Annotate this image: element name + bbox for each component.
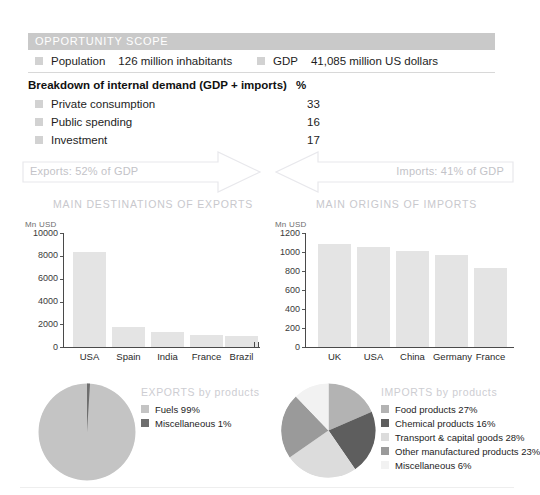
- breakdown-row-value: 16: [307, 116, 320, 128]
- y-tick-label: 400: [262, 304, 300, 314]
- y-tick-label: 8000: [18, 250, 58, 260]
- imports-pie-legend: IMPORTS by products Food products 27% Ch…: [381, 386, 540, 472]
- exports-pie-title: EXPORTS by products: [141, 386, 260, 398]
- legend-label: Miscellaneous 6%: [395, 460, 472, 471]
- legend-label: Chemical products 16%: [395, 418, 495, 429]
- x-tick-label: USA: [69, 351, 110, 362]
- breakdown-row: Private consumption 33: [28, 95, 495, 113]
- population-value: 126 million inhabitants: [118, 55, 232, 67]
- breakdown-row: Public spending 16: [28, 113, 495, 131]
- y-tickmark: [60, 256, 63, 257]
- exports-pie-legend: EXPORTS by products Fuels 99% Miscellane…: [141, 386, 260, 430]
- legend-label: Miscellaneous 1%: [155, 418, 232, 429]
- bar-uk: [318, 244, 351, 347]
- y-tick-label: 0: [262, 342, 300, 352]
- exports-section-title: MAIN DESTINATIONS OF EXPORTS: [53, 198, 253, 210]
- y-tickmark: [302, 309, 305, 310]
- legend-swatch-icon: [381, 433, 389, 441]
- legend-label: Other manufactured products 23%: [395, 446, 540, 457]
- x-tick-label: China: [392, 351, 433, 362]
- breakdown-row-value: 33: [307, 98, 320, 110]
- legend-item: Food products 27%: [381, 402, 540, 416]
- imports-share-label: Imports: 41% of GDP: [396, 165, 504, 177]
- y-tick-label: 10000: [18, 228, 58, 238]
- x-axis-line: [63, 347, 260, 348]
- imports-pie-graphic: [281, 383, 376, 478]
- legend-label: Transport & capital goods 28%: [395, 432, 525, 443]
- legend-swatch-icon: [141, 419, 149, 427]
- bullet-square-icon: [35, 118, 43, 126]
- scope-summary-row: Population 126 million inhabitants GDP 4…: [28, 50, 495, 73]
- y-tick-label: 800: [262, 266, 300, 276]
- legend-item: Transport & capital goods 28%: [381, 430, 540, 444]
- bar-spain: [112, 327, 145, 347]
- opportunity-scope-header: OPPORTUNITY SCOPE: [28, 33, 495, 50]
- bar-china: [396, 251, 429, 347]
- legend-swatch-icon: [381, 419, 389, 427]
- y-tickmark: [302, 271, 305, 272]
- gdp-group: GDP 41,085 million US dollars: [257, 55, 495, 67]
- y-tickmark: [60, 233, 63, 234]
- y-tick-label: 200: [262, 323, 300, 333]
- x-tick-label: India: [147, 351, 188, 362]
- y-tickmark: [60, 347, 63, 348]
- bar-france: [190, 335, 223, 347]
- y-tick-label: 4000: [18, 296, 58, 306]
- y-tickmark: [302, 290, 305, 291]
- breakdown-row-label: Investment: [51, 134, 107, 146]
- y-tickmark: [302, 233, 305, 234]
- legend-item: Other manufactured products 23%: [381, 444, 540, 458]
- bullet-square-icon: [35, 57, 43, 65]
- x-axis-start-cap: [254, 342, 255, 348]
- legend-label: Fuels 99%: [155, 404, 200, 415]
- y-tickmark: [302, 328, 305, 329]
- legend-item: Chemical products 16%: [381, 416, 540, 430]
- exports-pie-graphic: [38, 383, 136, 481]
- imports-pie-title: IMPORTS by products: [381, 386, 540, 398]
- x-tick-label: Brazil: [221, 351, 262, 362]
- legend-swatch-icon: [381, 447, 389, 455]
- imports-section-title: MAIN ORIGINS OF IMPORTS: [316, 198, 477, 210]
- breakdown-row: Investment 17: [28, 131, 495, 149]
- bar-usa: [357, 247, 390, 347]
- y-tick-label: 6000: [18, 273, 58, 283]
- y-tickmark: [302, 347, 305, 348]
- legend-swatch-icon: [381, 461, 389, 469]
- bullet-square-icon: [257, 57, 265, 65]
- y-tickmark: [302, 252, 305, 253]
- breakdown-header: Breakdown of internal demand (GDP + impo…: [28, 75, 495, 95]
- bar-usa: [73, 252, 106, 348]
- trade-flow-banner: Exports: 52% of GDP Imports: 41% of GDP: [22, 150, 514, 194]
- y-tickmark: [60, 279, 63, 280]
- y-tick-label: 1200: [262, 228, 300, 238]
- bar-france: [474, 268, 507, 347]
- bar-india: [151, 332, 184, 348]
- gdp-value: 41,085 million US dollars: [311, 55, 438, 67]
- y-tick-label: 2000: [18, 319, 58, 329]
- x-tick-label: Spain: [108, 351, 149, 362]
- bottom-divider: [20, 487, 514, 488]
- legend-item: Miscellaneous 1%: [141, 416, 260, 430]
- legend-swatch-icon: [141, 405, 149, 413]
- y-tick-label: 600: [262, 285, 300, 295]
- x-tick-label: UK: [314, 351, 355, 362]
- bar-germany: [435, 255, 468, 347]
- x-tick-label: Germany: [429, 351, 476, 362]
- breakdown-row-label: Public spending: [51, 116, 132, 128]
- x-tick-label: France: [470, 351, 511, 362]
- breakdown-title: Breakdown of internal demand (GDP + impo…: [28, 79, 287, 91]
- opportunity-scope-panel: OPPORTUNITY SCOPE Population 126 million…: [28, 33, 495, 149]
- y-tickmark: [60, 324, 63, 325]
- population-label: Population: [51, 55, 105, 67]
- x-axis-line: [305, 347, 514, 348]
- y-axis-line: [63, 233, 64, 348]
- legend-item: Fuels 99%: [141, 402, 260, 416]
- breakdown-unit: %: [296, 79, 306, 91]
- breakdown-row-label: Private consumption: [51, 98, 155, 110]
- breakdown-row-value: 17: [307, 134, 320, 146]
- y-tick-label: 1000: [262, 247, 300, 257]
- y-tickmark: [60, 302, 63, 303]
- gdp-label: GDP: [273, 55, 298, 67]
- imports-origins-bar-chart: Mn USD 1200 1000 800 600 400 200 0 UK US…: [258, 220, 518, 365]
